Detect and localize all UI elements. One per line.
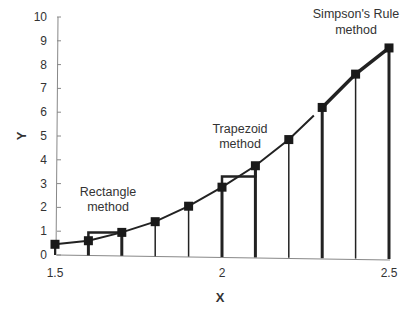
- simpson-method-label-line2: method: [335, 23, 377, 37]
- data-point-marker: [218, 183, 227, 192]
- data-point-marker: [84, 236, 93, 245]
- function-curve: [55, 115, 314, 244]
- y-tick-label: 10: [34, 10, 48, 24]
- y-tick-label: 6: [40, 105, 47, 119]
- data-point-marker: [151, 217, 160, 226]
- simpson-method-label-line1: Simpson's Rule: [313, 7, 399, 21]
- x-axis-ticks: 1.522.5: [47, 266, 398, 280]
- y-tick-label: 4: [40, 153, 47, 167]
- y-tick-label: 2: [40, 200, 47, 214]
- y-tick-label: 0: [40, 248, 47, 262]
- rectangle-method-label-line2: method: [87, 200, 129, 214]
- y-tick-label: 1: [40, 224, 47, 238]
- trapezoid-method-label-line2: method: [219, 137, 261, 151]
- y-tick-label: 5: [40, 129, 47, 143]
- data-point-marker: [351, 70, 360, 79]
- data-point-marker: [251, 161, 260, 170]
- integration-methods-chart: 012345678910 1.522.5 Y X Rectangle metho…: [0, 0, 410, 319]
- rectangle-method-label-line1: Rectangle: [80, 185, 136, 199]
- y-tick-label: 3: [40, 177, 47, 191]
- data-point-marker: [184, 202, 193, 211]
- data-point-marker: [284, 135, 293, 144]
- data-point-marker: [117, 228, 126, 237]
- y-tick-label: 8: [40, 58, 47, 72]
- x-tick-label: 1.5: [47, 266, 64, 280]
- data-point-marker: [385, 43, 394, 52]
- y-axis-title: Y: [14, 131, 29, 140]
- x-tick-label: 2: [219, 266, 226, 280]
- x-axis-title: X: [216, 290, 225, 305]
- x-tick-label: 2.5: [381, 266, 398, 280]
- data-point-marker: [51, 240, 60, 249]
- strip-boundaries: [55, 48, 389, 259]
- trapezoid-method-label-line1: Trapezoid: [212, 122, 267, 136]
- y-tick-label: 9: [40, 34, 47, 48]
- data-point-marker: [318, 103, 327, 112]
- y-tick-label: 7: [40, 81, 47, 95]
